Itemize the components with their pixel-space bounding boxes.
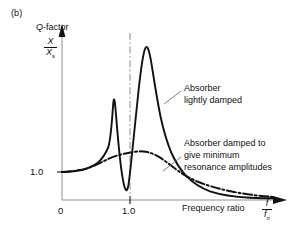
annotation-optimally-damped-line2: give minimum xyxy=(184,150,272,162)
y-axis-title-rest: -factor xyxy=(43,22,69,32)
y-axis-fraction-denominator: Xs xyxy=(44,48,57,59)
annotation-lightly-damped-line1: Absorber xyxy=(184,83,242,95)
x-axis-fraction: f fn xyxy=(262,199,272,222)
y-axis-fraction: X Xs xyxy=(44,37,57,60)
x-axis-fraction-denominator: fn xyxy=(262,210,272,221)
y-axis-fraction-numerator: X xyxy=(44,37,57,46)
origin-tick-label: 0 xyxy=(58,205,63,216)
y-axis-title: Q-factor xyxy=(36,22,69,32)
y-axis-fraction-subscript: s xyxy=(52,53,55,59)
curve-absorber-lightly-damped xyxy=(62,47,274,198)
annotation-optimally-damped-line3: resonance amplitudes xyxy=(184,162,272,174)
x-axis-title: Frequency ratio xyxy=(182,203,245,213)
y-axis xyxy=(59,24,66,200)
x-tick-label-one: 1.0 xyxy=(122,205,135,216)
figure-panel-b: (b) Q-factor X Xs 1.0 0 1.0 Frequency ra… xyxy=(0,0,295,241)
y-tick-label-one: 1.0 xyxy=(30,166,43,177)
y-axis-title-q: Q xyxy=(36,22,43,32)
annotation-lightly-damped: Absorber lightly damped xyxy=(184,83,242,107)
x-axis-fraction-numerator: f xyxy=(262,199,272,208)
panel-label: (b) xyxy=(11,8,22,18)
x-axis-fraction-subscript: n xyxy=(267,215,270,221)
annotation-optimally-damped: Absorber damped to give minimum resonanc… xyxy=(184,138,272,174)
leader-line-lightly-damped xyxy=(164,91,181,104)
annotation-lightly-damped-line2: lightly damped xyxy=(184,95,242,107)
annotation-optimally-damped-line1: Absorber damped to xyxy=(184,138,272,150)
